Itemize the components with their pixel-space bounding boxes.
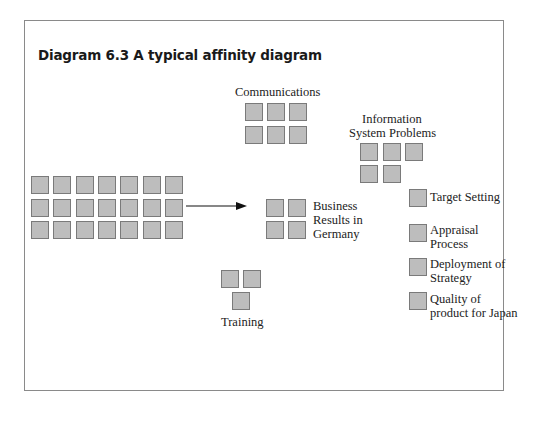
card: [266, 221, 284, 239]
card: [409, 189, 427, 207]
group-label-target-setting: Target Setting: [430, 190, 500, 204]
card: [383, 165, 401, 183]
group-label-deployment-line1: Deployment of: [430, 257, 505, 271]
card: [289, 126, 307, 144]
group-label-training: Training: [221, 315, 264, 329]
card: [267, 126, 285, 144]
card: [232, 292, 250, 310]
card: [288, 221, 306, 239]
group-label-business-line2: Results in: [313, 213, 363, 227]
card: [289, 103, 307, 121]
group-label-communications: Communications: [235, 85, 320, 99]
card: [267, 103, 285, 121]
card: [243, 270, 261, 288]
card: [409, 292, 427, 310]
card: [288, 199, 306, 217]
card: [266, 199, 284, 217]
card: [360, 143, 378, 161]
card: [360, 165, 378, 183]
group-label-information-line2: System Problems: [349, 126, 436, 140]
group-label-quality-line1: Quality of: [430, 292, 481, 306]
group-label-appraisal-line1: Appraisal: [430, 223, 479, 237]
group-label-deployment-line2: Strategy: [430, 271, 472, 285]
group-label-information-line1: Information: [362, 112, 422, 126]
card: [405, 143, 423, 161]
card: [409, 258, 427, 276]
group-label-business-line3: Germany: [313, 227, 360, 241]
group-label-quality-line2: product for Japan: [430, 306, 517, 320]
arrow-head-icon: [236, 202, 247, 210]
group-label-appraisal-line2: Process: [430, 237, 468, 251]
group-label-business-line1: Business: [313, 199, 357, 213]
card: [245, 103, 263, 121]
card: [221, 270, 239, 288]
card: [383, 143, 401, 161]
card: [245, 126, 263, 144]
card: [409, 224, 427, 242]
